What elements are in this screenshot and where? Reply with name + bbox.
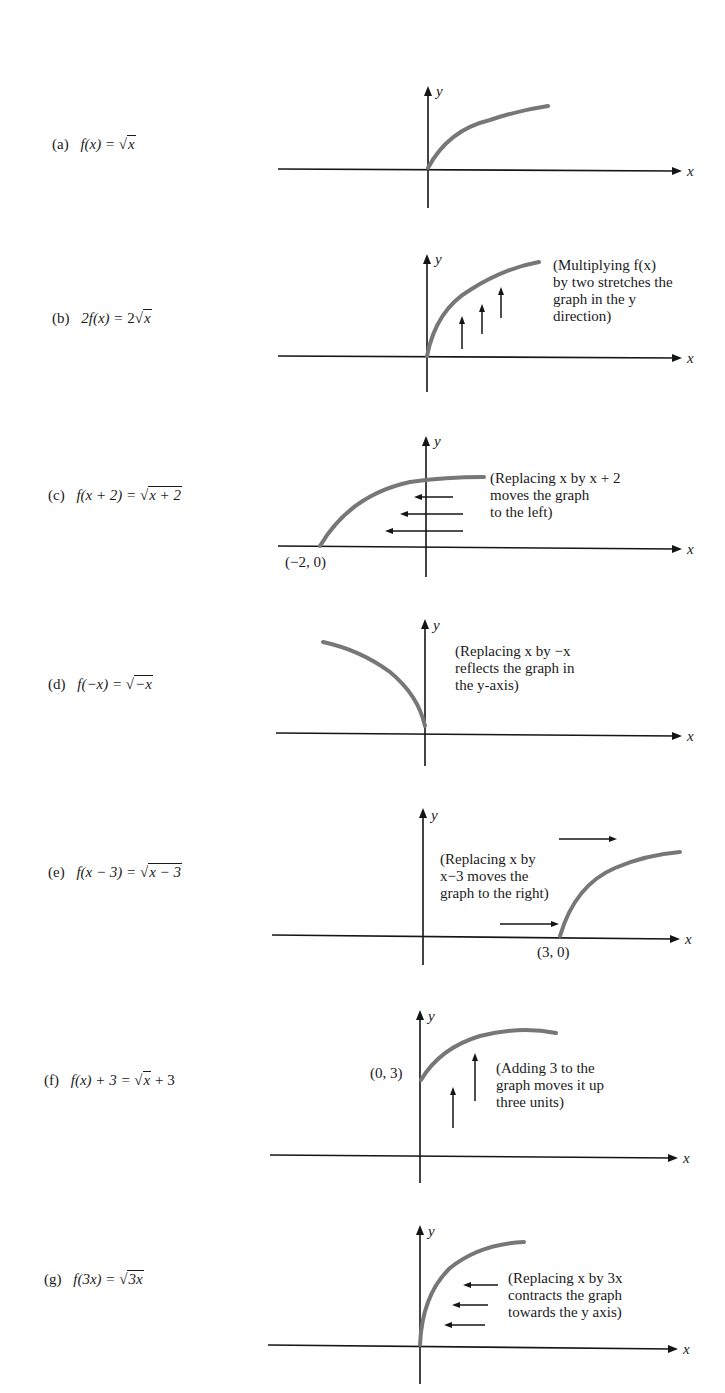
y-axis-arrowhead-icon (416, 1225, 424, 1235)
left-arrow-icon (463, 1282, 471, 1288)
y-axis-label: y (426, 1223, 435, 1239)
panel-g: (g) f(3x) = √3x y x (Replacing x by 3x c… (0, 0, 725, 1393)
left-arrow-icon (452, 1302, 460, 1308)
x-axis (268, 1345, 672, 1349)
graph-g: y x (0, 0, 725, 1393)
left-arrow-icon (444, 1322, 452, 1328)
x-axis-arrowhead-icon (668, 1345, 678, 1353)
annotation-g: (Replacing x by 3x contracts the graph t… (508, 1270, 623, 1321)
x-axis-label: x (682, 1341, 690, 1357)
